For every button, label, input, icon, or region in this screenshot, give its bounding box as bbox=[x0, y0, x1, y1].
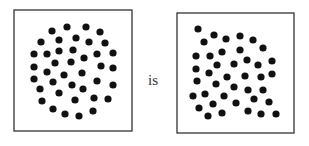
dot bbox=[37, 38, 44, 45]
dot bbox=[55, 36, 62, 43]
dot bbox=[241, 72, 248, 79]
dot bbox=[222, 35, 229, 42]
dot bbox=[244, 86, 251, 93]
dot bbox=[38, 97, 45, 104]
dot bbox=[43, 68, 50, 75]
dot bbox=[60, 71, 67, 78]
dot bbox=[72, 34, 79, 41]
dot bbox=[259, 86, 266, 93]
dot bbox=[249, 36, 256, 43]
dot bbox=[192, 52, 199, 59]
dot bbox=[55, 47, 62, 54]
dot bbox=[109, 64, 116, 71]
dot bbox=[71, 96, 78, 103]
dot bbox=[75, 112, 82, 119]
connector-word: is bbox=[148, 72, 158, 89]
dot bbox=[49, 78, 56, 85]
dot bbox=[67, 58, 74, 65]
dot bbox=[243, 56, 250, 63]
dot bbox=[210, 31, 217, 38]
dot bbox=[109, 81, 116, 88]
dot bbox=[55, 89, 62, 96]
dot bbox=[204, 112, 211, 119]
dot bbox=[93, 50, 100, 57]
dot bbox=[212, 80, 219, 87]
dot bbox=[230, 60, 237, 67]
dot bbox=[78, 69, 85, 76]
dot bbox=[51, 59, 58, 66]
dot bbox=[109, 49, 116, 56]
dot bbox=[254, 61, 261, 68]
dot bbox=[63, 23, 70, 30]
dot bbox=[201, 90, 208, 97]
dot bbox=[97, 62, 104, 69]
dot bbox=[30, 75, 37, 82]
dot bbox=[223, 73, 230, 80]
dot bbox=[48, 27, 55, 34]
dot bbox=[220, 92, 227, 99]
dot bbox=[79, 85, 86, 92]
dot bbox=[209, 100, 216, 107]
dot bbox=[200, 38, 207, 45]
dot bbox=[268, 57, 275, 64]
dot bbox=[68, 81, 75, 88]
dot bbox=[205, 69, 212, 76]
dot bbox=[82, 23, 89, 30]
left-panel-circular-dots bbox=[14, 10, 132, 131]
dot bbox=[101, 39, 108, 46]
dot bbox=[218, 109, 225, 116]
dot bbox=[272, 110, 279, 117]
dot bbox=[69, 46, 76, 53]
dot bbox=[236, 32, 243, 39]
dot bbox=[96, 28, 103, 35]
dot bbox=[194, 25, 201, 32]
dot bbox=[218, 48, 225, 55]
dot bbox=[189, 92, 196, 99]
dot bbox=[104, 95, 111, 102]
dot bbox=[257, 110, 264, 117]
dot bbox=[30, 50, 37, 57]
dot bbox=[43, 50, 50, 57]
right-panel-irregular-dots bbox=[177, 13, 294, 133]
dot bbox=[236, 46, 243, 53]
dot bbox=[213, 61, 220, 68]
dot bbox=[193, 77, 200, 84]
dot bbox=[230, 83, 237, 90]
dot bbox=[49, 105, 56, 112]
dot bbox=[250, 95, 257, 102]
dot bbox=[36, 85, 43, 92]
dot bbox=[93, 77, 100, 84]
dot bbox=[259, 44, 266, 51]
dot bbox=[244, 107, 251, 114]
dot bbox=[268, 70, 275, 77]
dot bbox=[61, 110, 68, 117]
dot bbox=[232, 99, 239, 106]
dot bbox=[85, 38, 92, 45]
dot bbox=[192, 65, 199, 72]
dot bbox=[206, 52, 213, 59]
dot bbox=[90, 94, 97, 101]
dot bbox=[80, 54, 87, 61]
dot bbox=[257, 73, 264, 80]
dot bbox=[89, 107, 96, 114]
dot bbox=[195, 104, 202, 111]
dot bbox=[30, 63, 37, 70]
dot bbox=[265, 98, 272, 105]
